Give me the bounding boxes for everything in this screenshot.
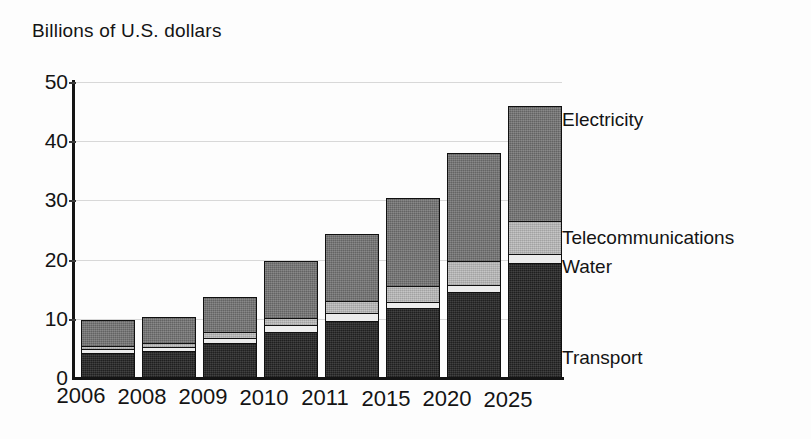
stacked-bar-chart: Billions of U.S. dollars — [0, 0, 811, 439]
segment-electricity — [508, 106, 562, 221]
segment-electricity — [325, 234, 379, 302]
y-axis-tick-labels: 50 40 30 20 10 0 — [20, 0, 68, 439]
x-tick-label-2015: 2015 — [351, 386, 421, 411]
x-axis-tick-labels: 2006 2008 2009 2010 2011 2015 2020 2025 — [0, 381, 620, 421]
segment-transport — [325, 321, 379, 378]
x-tick-label-2020: 2020 — [412, 386, 482, 411]
y-axis-line — [72, 80, 75, 380]
segment-water — [325, 313, 379, 321]
x-axis-line — [72, 377, 564, 380]
x-tick-label-2008: 2008 — [107, 384, 177, 409]
series-label-telecommunications: Telecommunications — [562, 228, 734, 247]
gridline-50 — [75, 82, 562, 83]
x-tick-label-2025: 2025 — [473, 387, 543, 412]
segment-water — [508, 254, 562, 263]
segment-water — [447, 285, 501, 292]
segment-telecommunications — [508, 221, 562, 255]
segment-electricity — [142, 317, 196, 344]
y-tick-label-20: 20 — [28, 249, 68, 270]
plot-area — [75, 82, 562, 378]
segment-transport — [264, 332, 318, 378]
x-tick-label-2006: 2006 — [46, 383, 116, 408]
segment-telecommunications — [386, 286, 440, 302]
segment-telecommunications — [447, 261, 501, 286]
segment-electricity — [81, 320, 135, 347]
x-tick-label-2009: 2009 — [168, 384, 238, 409]
segment-transport — [386, 308, 440, 378]
y-tick-label-10: 10 — [28, 308, 68, 329]
segment-electricity — [386, 198, 440, 287]
segment-transport — [203, 343, 257, 378]
y-tick-mark-10 — [69, 319, 76, 321]
x-tick-label-2010: 2010 — [229, 385, 299, 410]
y-tick-label-40: 40 — [28, 130, 68, 151]
segment-transport — [447, 292, 501, 378]
segment-electricity — [203, 297, 257, 333]
segment-telecommunications — [325, 301, 379, 313]
series-label-transport: Transport — [562, 348, 643, 367]
y-tick-mark-20 — [69, 260, 76, 262]
y-tick-label-30: 30 — [28, 189, 68, 210]
series-label-water: Water — [562, 257, 612, 276]
y-tick-mark-30 — [69, 200, 76, 202]
y-tick-label-50: 50 — [28, 71, 68, 92]
series-label-electricity: Electricity — [562, 110, 643, 129]
segment-transport — [142, 351, 196, 378]
segment-electricity — [264, 261, 318, 318]
segment-electricity — [447, 153, 501, 261]
y-tick-mark-40 — [69, 141, 76, 143]
segment-transport — [508, 263, 562, 378]
gridline-40 — [75, 141, 562, 142]
y-tick-mark-50 — [69, 82, 76, 84]
x-tick-label-2011: 2011 — [290, 385, 360, 410]
segment-transport — [81, 353, 135, 378]
